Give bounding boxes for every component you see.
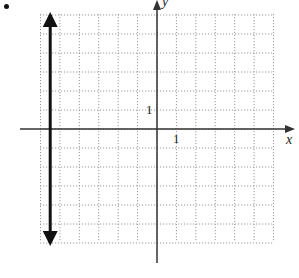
x-tick-label-1: 1 bbox=[173, 131, 180, 147]
x-axis-label: x bbox=[286, 132, 292, 148]
axes bbox=[20, 2, 293, 263]
coordinate-plane bbox=[0, 0, 299, 278]
y-axis-label: y bbox=[162, 0, 168, 10]
y-tick-label-1: 1 bbox=[146, 102, 153, 118]
